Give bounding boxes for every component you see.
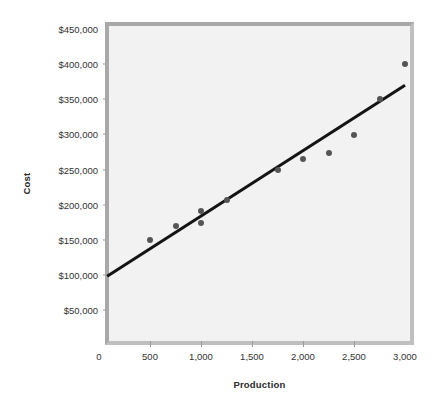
data-point — [198, 220, 204, 226]
data-point — [275, 167, 281, 173]
x-tick-mark — [303, 341, 304, 347]
x-axis-title: Production — [105, 379, 414, 390]
x-tick-mark — [150, 341, 151, 347]
x-tick-mark — [252, 341, 253, 347]
y-tick-label: $450,000 — [58, 24, 98, 35]
y-tick-label: $100,000 — [58, 269, 98, 280]
data-point — [173, 223, 179, 229]
x-tick-label: 1,000 — [189, 351, 213, 362]
data-point — [300, 156, 306, 162]
data-point — [326, 150, 332, 156]
y-tick-label: $50,000 — [64, 305, 98, 316]
x-tick-label: 500 — [142, 351, 158, 362]
x-tick-label: 0 — [96, 351, 101, 362]
y-axis-title: Cost — [21, 164, 32, 204]
data-point — [198, 208, 204, 214]
x-tick-label: 1,500 — [240, 351, 264, 362]
data-point — [377, 96, 383, 102]
x-tick-label: 2,500 — [342, 351, 366, 362]
y-tick-label: $150,000 — [58, 234, 98, 245]
data-point — [402, 61, 408, 67]
y-tick-label: $350,000 — [58, 94, 98, 105]
data-point — [351, 132, 357, 138]
x-tick-label: 2,000 — [291, 351, 315, 362]
plot-area — [105, 22, 414, 345]
data-point — [224, 197, 230, 203]
x-tick-mark — [201, 341, 202, 347]
cost-vs-production-scatter-chart: Cost $50,000$100,000$150,000$200,000$250… — [0, 0, 439, 399]
x-tick-label: 3,000 — [393, 351, 417, 362]
y-tick-label: $250,000 — [58, 164, 98, 175]
x-tick-mark — [354, 341, 355, 347]
data-point — [147, 237, 153, 243]
y-tick-label: $200,000 — [58, 199, 98, 210]
y-tick-label: $400,000 — [58, 59, 98, 70]
y-tick-label: $300,000 — [58, 129, 98, 140]
plot-inner-canvas — [109, 26, 410, 341]
